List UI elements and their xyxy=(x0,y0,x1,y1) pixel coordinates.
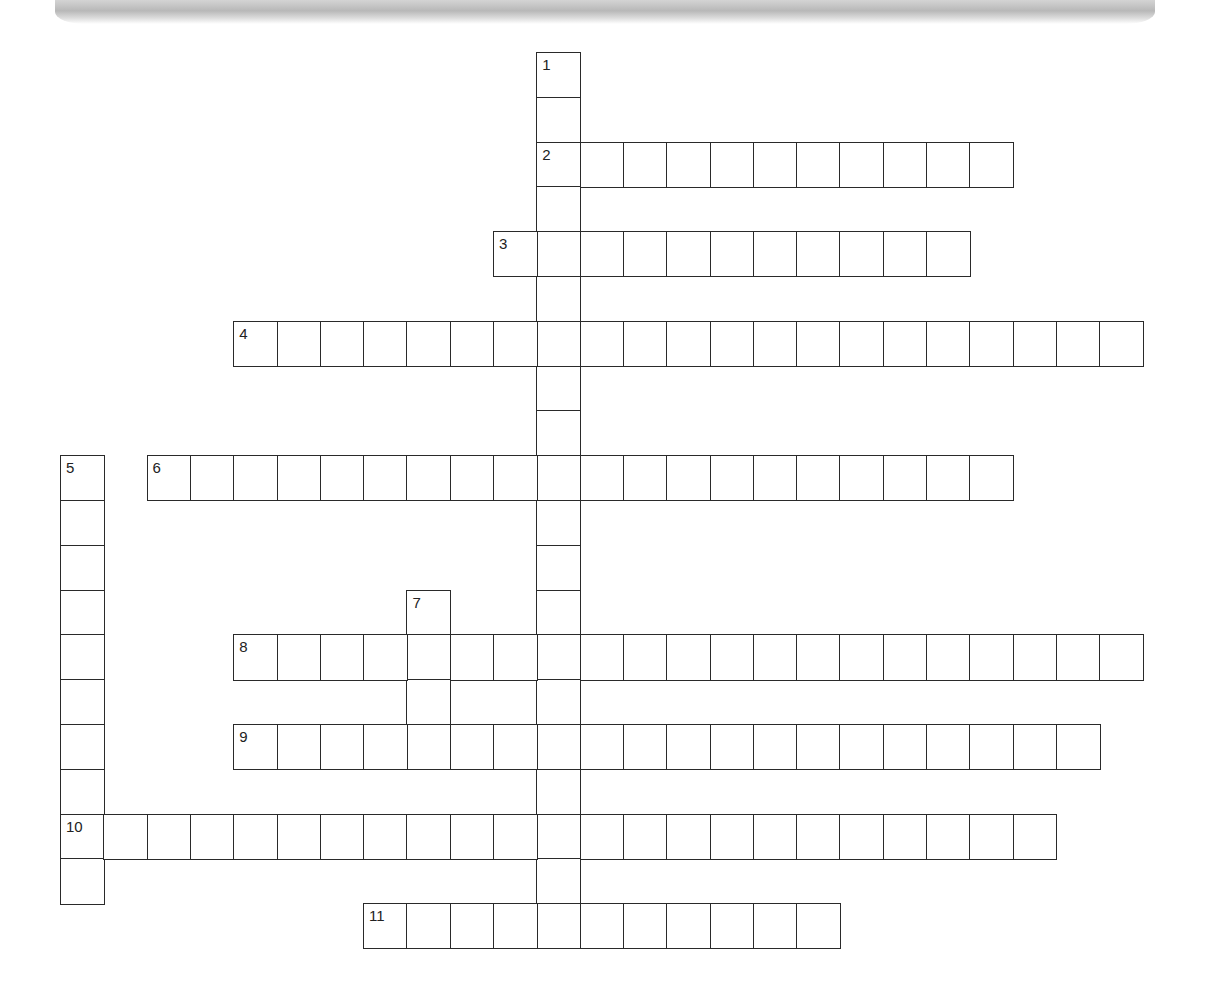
crossword-cell[interactable] xyxy=(450,321,495,367)
crossword-cell[interactable] xyxy=(623,231,668,277)
crossword-cell[interactable] xyxy=(406,903,451,949)
crossword-cell[interactable] xyxy=(147,814,192,860)
crossword-cell[interactable] xyxy=(710,634,755,680)
crossword-cell[interactable] xyxy=(580,142,625,188)
crossword-cell[interactable] xyxy=(796,814,841,860)
crossword-cell[interactable] xyxy=(363,321,408,367)
crossword-cell[interactable] xyxy=(320,724,365,770)
crossword-cell[interactable] xyxy=(320,814,365,860)
crossword-cell[interactable] xyxy=(493,724,538,770)
crossword-cell[interactable] xyxy=(536,97,581,143)
crossword-cell[interactable] xyxy=(406,679,451,725)
crossword-cell[interactable] xyxy=(883,455,928,501)
crossword-cell[interactable] xyxy=(623,455,668,501)
crossword-cell[interactable] xyxy=(60,590,105,636)
crossword-cell[interactable] xyxy=(536,545,581,591)
crossword-cell[interactable] xyxy=(883,724,928,770)
crossword-cell[interactable] xyxy=(1099,634,1144,680)
crossword-cell[interactable]: 3 xyxy=(493,231,538,277)
crossword-cell[interactable] xyxy=(450,724,495,770)
crossword-cell[interactable] xyxy=(839,142,884,188)
crossword-cell[interactable] xyxy=(536,590,581,636)
crossword-cell[interactable] xyxy=(623,634,668,680)
crossword-cell[interactable]: 5 xyxy=(60,455,105,501)
crossword-cell[interactable]: 8 xyxy=(233,634,278,680)
crossword-cell[interactable] xyxy=(536,500,581,546)
crossword-cell[interactable] xyxy=(1099,321,1144,367)
crossword-cell[interactable] xyxy=(580,814,625,860)
crossword-cell[interactable] xyxy=(580,321,625,367)
crossword-cell[interactable] xyxy=(536,903,581,949)
crossword-cell[interactable] xyxy=(926,814,971,860)
crossword-cell[interactable] xyxy=(450,814,495,860)
crossword-cell[interactable] xyxy=(710,142,755,188)
crossword-cell[interactable] xyxy=(190,814,235,860)
crossword-cell[interactable] xyxy=(710,321,755,367)
crossword-cell[interactable] xyxy=(536,321,581,367)
crossword-cell[interactable] xyxy=(277,814,322,860)
crossword-cell[interactable] xyxy=(623,142,668,188)
crossword-cell[interactable] xyxy=(926,231,971,277)
crossword-cell[interactable] xyxy=(60,500,105,546)
crossword-cell[interactable] xyxy=(926,455,971,501)
crossword-cell[interactable] xyxy=(1056,724,1101,770)
crossword-cell[interactable] xyxy=(796,903,841,949)
crossword-cell[interactable] xyxy=(450,634,495,680)
crossword-cell[interactable] xyxy=(796,724,841,770)
crossword-cell[interactable] xyxy=(536,410,581,456)
crossword-cell[interactable] xyxy=(666,455,711,501)
crossword-cell[interactable] xyxy=(536,455,581,501)
crossword-cell[interactable] xyxy=(60,545,105,591)
crossword-cell[interactable] xyxy=(710,814,755,860)
crossword-cell[interactable]: 1 xyxy=(536,52,581,98)
crossword-cell[interactable] xyxy=(969,321,1014,367)
crossword-cell[interactable] xyxy=(666,142,711,188)
crossword-cell[interactable] xyxy=(1013,814,1058,860)
crossword-cell[interactable] xyxy=(493,814,538,860)
crossword-cell[interactable] xyxy=(926,142,971,188)
crossword-cell[interactable] xyxy=(60,724,105,770)
crossword-cell[interactable] xyxy=(666,724,711,770)
crossword-cell[interactable] xyxy=(363,814,408,860)
crossword-cell[interactable] xyxy=(969,814,1014,860)
crossword-cell[interactable] xyxy=(536,634,581,680)
crossword-cell[interactable] xyxy=(536,814,581,860)
crossword-cell[interactable] xyxy=(969,634,1014,680)
crossword-cell[interactable] xyxy=(883,814,928,860)
crossword-cell[interactable] xyxy=(406,455,451,501)
crossword-cell[interactable] xyxy=(580,231,625,277)
crossword-cell[interactable] xyxy=(666,903,711,949)
crossword-cell[interactable] xyxy=(666,231,711,277)
crossword-cell[interactable] xyxy=(1013,634,1058,680)
crossword-cell[interactable]: 4 xyxy=(233,321,278,367)
crossword-cell[interactable] xyxy=(320,634,365,680)
crossword-cell[interactable] xyxy=(839,455,884,501)
crossword-cell[interactable] xyxy=(406,634,451,680)
crossword-cell[interactable] xyxy=(926,634,971,680)
crossword-cell[interactable] xyxy=(710,724,755,770)
crossword-cell[interactable] xyxy=(753,814,798,860)
crossword-cell[interactable] xyxy=(753,903,798,949)
crossword-cell[interactable] xyxy=(883,142,928,188)
crossword-cell[interactable] xyxy=(926,724,971,770)
crossword-cell[interactable] xyxy=(1013,724,1058,770)
crossword-cell[interactable] xyxy=(536,231,581,277)
crossword-cell[interactable] xyxy=(753,321,798,367)
crossword-cell[interactable] xyxy=(363,634,408,680)
crossword-cell[interactable] xyxy=(666,634,711,680)
crossword-cell[interactable] xyxy=(580,634,625,680)
crossword-cell[interactable] xyxy=(536,769,581,815)
crossword-cell[interactable] xyxy=(710,903,755,949)
crossword-cell[interactable] xyxy=(710,231,755,277)
crossword-cell[interactable] xyxy=(1056,634,1101,680)
crossword-cell[interactable] xyxy=(883,231,928,277)
crossword-cell[interactable] xyxy=(753,724,798,770)
crossword-cell[interactable] xyxy=(233,455,278,501)
crossword-cell[interactable] xyxy=(277,724,322,770)
crossword-cell[interactable] xyxy=(969,142,1014,188)
crossword-cell[interactable] xyxy=(60,679,105,725)
crossword-cell[interactable] xyxy=(536,366,581,412)
crossword-cell[interactable] xyxy=(320,455,365,501)
crossword-cell[interactable]: 6 xyxy=(147,455,192,501)
crossword-cell[interactable] xyxy=(969,455,1014,501)
